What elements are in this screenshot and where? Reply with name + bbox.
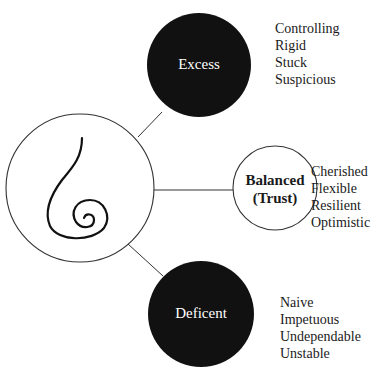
balanced-title-line1: Balanced xyxy=(233,171,317,189)
connector-deficient xyxy=(128,244,163,276)
trait: Controlling xyxy=(275,20,340,37)
trait: Cherished xyxy=(311,163,370,180)
balanced-title: Balanced (Trust) xyxy=(233,171,317,207)
balanced-traits: Cherished Flexible Resilient Optimistic xyxy=(311,163,370,231)
trait: Stuck xyxy=(275,54,340,71)
trait: Flexible xyxy=(311,180,370,197)
trait: Naive xyxy=(280,294,361,311)
deficient-traits: Naive Impetuous Undependable Unstable xyxy=(280,294,361,362)
deficient-title: Deficent xyxy=(151,304,251,322)
trait: Undependable xyxy=(280,328,361,345)
balanced-title-line2: (Trust) xyxy=(233,189,317,207)
trait: Suspicious xyxy=(275,71,340,88)
trait: Unstable xyxy=(280,345,361,362)
trait: Impetuous xyxy=(280,311,361,328)
trait: Optimistic xyxy=(311,214,370,231)
trait: Rigid xyxy=(275,37,340,54)
excess-traits: Controlling Rigid Stuck Suspicious xyxy=(275,20,340,88)
center-circle xyxy=(6,114,154,262)
excess-title: Excess xyxy=(149,55,249,73)
trait: Resilient xyxy=(311,197,370,214)
connector-excess xyxy=(138,112,162,137)
